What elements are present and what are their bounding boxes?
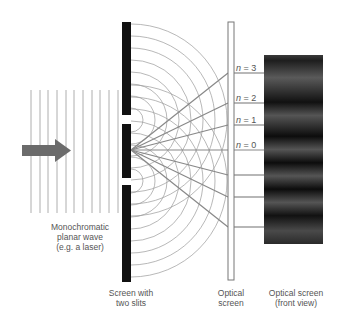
label-two-slits: Screen with two slits xyxy=(96,288,166,308)
label-line: two slits xyxy=(96,298,166,308)
label-line: Screen with xyxy=(96,288,166,298)
order-value: = 3 xyxy=(241,63,256,73)
order-label-n3: n = 3 xyxy=(236,63,256,73)
optical-screen-front-view xyxy=(264,55,323,244)
order-label-n2: n = 2 xyxy=(236,93,256,103)
label-line: planar wave xyxy=(30,232,130,242)
label-line: screen xyxy=(206,298,256,308)
order-label-n0: n = 0 xyxy=(236,140,256,150)
order-value: = 2 xyxy=(241,93,256,103)
arrow-right-icon xyxy=(22,139,71,162)
label-line: Optical screen xyxy=(256,288,336,298)
order-value: = 1 xyxy=(241,115,256,125)
label-line: (e.g. a laser) xyxy=(30,242,130,252)
label-line: Monochromatic xyxy=(30,222,130,232)
label-planar-wave: Monochromatic planar wave (e.g. a laser) xyxy=(30,222,130,252)
double-slit-diagram xyxy=(0,0,338,328)
label-line: (front view) xyxy=(256,298,336,308)
label-line: Optical xyxy=(206,288,256,298)
label-optical-screen: Optical screen xyxy=(206,288,256,308)
optical-screen-side xyxy=(228,22,234,280)
order-label-n1: n = 1 xyxy=(236,115,256,125)
order-value: = 0 xyxy=(241,140,256,150)
label-front-view: Optical screen (front view) xyxy=(256,288,336,308)
